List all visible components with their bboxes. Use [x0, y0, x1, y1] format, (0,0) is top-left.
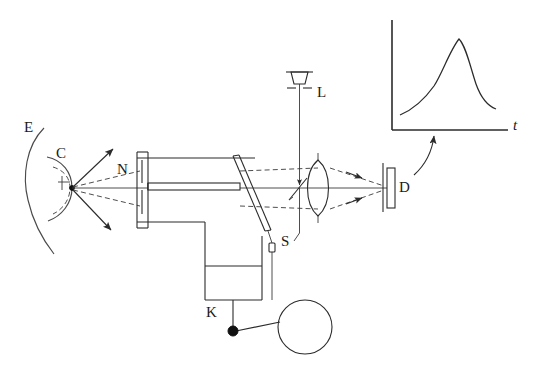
label-aperture: N: [117, 162, 128, 177]
signal-cable: [228, 300, 280, 336]
illumination-beam: [294, 90, 300, 241]
internal-light-stop: [148, 183, 240, 190]
label-cable: K: [206, 305, 217, 320]
signal-flow-arrow: [414, 136, 434, 175]
beamsplitter-plate: [233, 155, 275, 300]
signal-plot: [392, 20, 508, 130]
eye-globe-arc: [25, 128, 54, 254]
label-time-axis: t: [513, 118, 517, 133]
label-beamsplitter: S: [281, 234, 289, 249]
label-cornea: C: [56, 146, 66, 161]
label-lamp: L: [317, 85, 326, 100]
optical-diagram-figure: E C N L S D K t: [0, 0, 533, 372]
label-detector: D: [399, 180, 410, 195]
converging-beam-upper: [240, 168, 384, 186]
fold-mirror: [289, 178, 307, 200]
scattered-ray-upper: [73, 149, 113, 187]
instrument-housing: [137, 152, 262, 300]
photodetector: [383, 163, 395, 212]
scattered-ray-lower: [73, 190, 111, 230]
cornea-arc: [47, 157, 72, 221]
converging-beam-lower: [240, 190, 384, 209]
light-source-lamp: [286, 72, 313, 90]
diagram-canvas: [0, 0, 533, 372]
label-eye: E: [24, 120, 33, 135]
readout-circle: [278, 300, 332, 354]
